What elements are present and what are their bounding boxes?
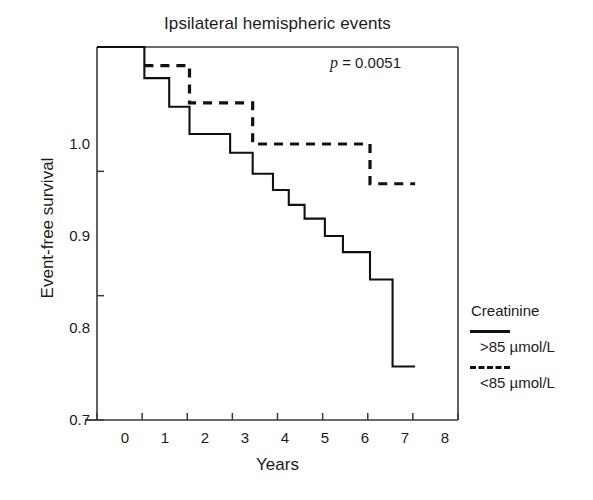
legend-swatch-solid-icon — [470, 330, 510, 333]
legend-label-dashed: <85 µmol/L — [480, 374, 593, 391]
series-line-2 — [144, 66, 415, 184]
legend-swatch-dashed-icon — [470, 366, 510, 369]
legend-label-solid: >85 µmol/L — [480, 338, 593, 355]
plot-area — [0, 0, 593, 500]
tick-marks — [85, 47, 458, 420]
axis-frame — [85, 47, 458, 420]
legend-item-solid: >85 µmol/L — [468, 330, 593, 355]
survival-chart-figure: Ipsilateral hemispheric events p = 0.005… — [0, 0, 593, 500]
legend: Creatinine >85 µmol/L <85 µmol/L — [468, 302, 593, 402]
legend-item-dashed: <85 µmol/L — [468, 366, 593, 391]
legend-title: Creatinine — [471, 302, 593, 319]
series-line-1 — [97, 47, 415, 367]
series-lines — [97, 47, 415, 367]
